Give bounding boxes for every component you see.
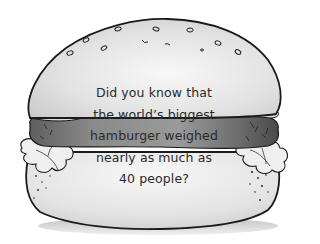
caption-line-4: nearly as much as xyxy=(64,147,244,169)
caption-line-5: 40 people? xyxy=(64,168,244,190)
trivia-caption: Did you know that the world’s biggest ha… xyxy=(64,82,244,190)
caption-line-2: the world’s biggest xyxy=(64,104,244,126)
caption-line-1: Did you know that xyxy=(64,82,244,104)
caption-line-3: hamburger weighed xyxy=(64,125,244,147)
